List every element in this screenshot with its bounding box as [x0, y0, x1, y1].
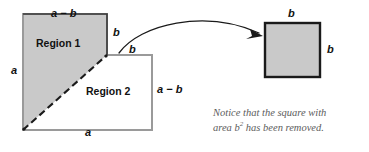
caption-line-2: area b2 has been removed.	[213, 120, 326, 134]
caption-block: Notice that the square with area b2 has …	[213, 106, 326, 134]
label-removed-square-top-b: b	[288, 8, 295, 19]
label-bottom-a: a	[85, 127, 91, 138]
label-notch-horizontal-b: b	[129, 44, 136, 55]
label-removed-square-right-b: b	[327, 44, 334, 55]
label-notch-vertical-b: b	[113, 27, 120, 38]
removed-square-shape	[265, 23, 320, 77]
caption-line-1: Notice that the square with	[213, 106, 326, 120]
geometry-figure: a − b a a b b a − b Region 1 Region 2 b …	[0, 0, 369, 152]
region-1-shape	[23, 14, 107, 130]
label-region-1: Region 1	[36, 38, 80, 49]
label-region2-right-a-minus-b: a − b	[157, 84, 182, 95]
label-region-2: Region 2	[86, 86, 130, 97]
label-top-a-minus-b: a − b	[51, 8, 76, 19]
diagonal-endpoint-dot-lower	[22, 127, 25, 130]
curved-arrow-shaft	[119, 21, 259, 53]
label-left-a: a	[11, 65, 17, 76]
diagonal-endpoint-dot-upper	[104, 54, 107, 57]
caption-line-2-prefix: area b	[213, 121, 240, 132]
caption-line-2-suffix: has been removed.	[243, 121, 324, 132]
